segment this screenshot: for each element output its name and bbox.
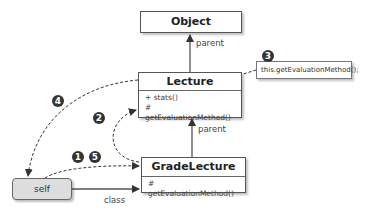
step-badge-5: 5 bbox=[89, 151, 101, 163]
edge-label-class: class bbox=[104, 195, 125, 205]
lecture-member-stats: + stats() bbox=[145, 93, 235, 103]
object-class-box: Object bbox=[140, 11, 242, 33]
grade-lecture-class-name: GradeLecture bbox=[142, 158, 245, 176]
grade-lecture-members: # getEvaluationMethod() bbox=[142, 176, 245, 201]
code-note: this.getEvaluationMethod(); bbox=[256, 61, 352, 79]
step-badge-4: 4 bbox=[52, 95, 64, 107]
lecture-member-get-evaluation: # getEvaluationMethod() bbox=[145, 103, 235, 123]
grade-lecture-class-box: GradeLecture # getEvaluationMethod() bbox=[141, 157, 246, 193]
self-instance-box: self bbox=[12, 178, 72, 200]
step-badge-3: 3 bbox=[262, 50, 274, 62]
step-badge-2: 2 bbox=[93, 112, 105, 124]
lecture-class-name: Lecture bbox=[139, 73, 241, 90]
lecture-class-box: Lecture + stats() # getEvaluationMethod(… bbox=[138, 72, 242, 118]
code-note-text: this.getEvaluationMethod(); bbox=[257, 62, 351, 78]
object-class-name: Object bbox=[141, 12, 241, 32]
edge-label-grade-parent: parent bbox=[198, 124, 226, 134]
grade-lecture-member-get-evaluation: # getEvaluationMethod() bbox=[148, 179, 239, 199]
edge-label-lecture-parent: parent bbox=[196, 38, 224, 48]
lecture-members: + stats() # getEvaluationMethod() bbox=[139, 90, 241, 125]
step-badge-1: 1 bbox=[72, 151, 84, 163]
self-instance-label: self bbox=[13, 179, 71, 199]
